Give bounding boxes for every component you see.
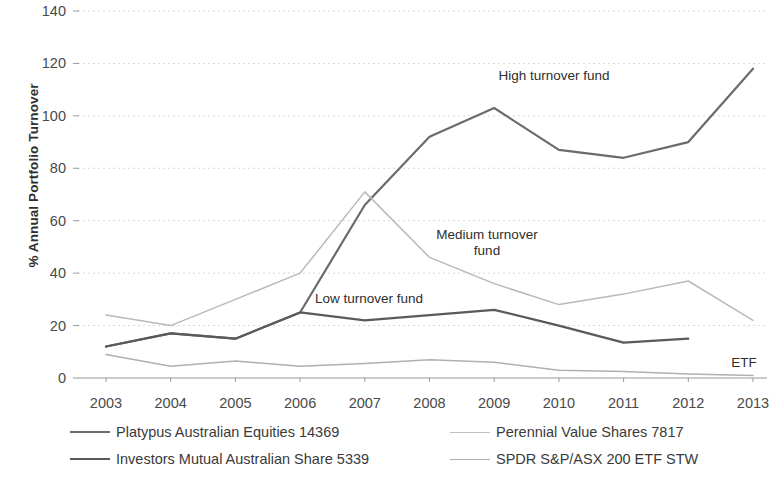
legend-swatch-icon (70, 458, 110, 460)
legend-item-0[interactable]: Platypus Australian Equities 14369 (70, 424, 339, 440)
x-tick-label: 2004 (139, 395, 203, 411)
x-tick-label: 2008 (398, 395, 462, 411)
legend-label: Investors Mutual Australian Share 5339 (116, 451, 369, 467)
annotation-high-turnover: High turnover fund (498, 68, 609, 84)
series-line-0 (106, 69, 753, 347)
x-tick-label: 2010 (527, 395, 591, 411)
annotation-etf: ETF (731, 355, 757, 371)
chart-legend: Platypus Australian Equities 14369Perenn… (70, 424, 760, 474)
annotation-medium-line2: fund (474, 243, 500, 258)
y-tick-label: 120 (20, 55, 66, 71)
data-series-group (106, 69, 753, 376)
y-tick-label: 100 (20, 108, 66, 124)
axis-lines (73, 11, 767, 382)
y-tick-label: 140 (20, 3, 66, 19)
annotation-medium-turnover: Medium turnover fund (412, 227, 562, 260)
legend-swatch-icon (450, 432, 490, 433)
annotation-low-turnover: Low turnover fund (315, 291, 423, 307)
plot-area: 020406080100120140 200320042005200620072… (78, 11, 767, 378)
x-tick-label: 2003 (74, 395, 138, 411)
series-line-2 (106, 310, 688, 347)
x-tick-label: 2007 (333, 395, 397, 411)
legend-item-1[interactable]: Perennial Value Shares 7817 (450, 424, 684, 440)
x-tick-label: 2005 (203, 395, 267, 411)
series-line-3 (106, 354, 753, 375)
chart-svg (78, 11, 767, 378)
legend-item-3[interactable]: SPDR S&P/ASX 200 ETF STW (450, 451, 698, 467)
y-tick-label: 20 (20, 318, 66, 334)
legend-label: Perennial Value Shares 7817 (496, 424, 684, 440)
x-tick-label: 2006 (268, 395, 332, 411)
legend-swatch-icon (70, 431, 110, 433)
legend-swatch-icon (450, 459, 490, 460)
legend-item-2[interactable]: Investors Mutual Australian Share 5339 (70, 451, 369, 467)
legend-label: SPDR S&P/ASX 200 ETF STW (496, 451, 698, 467)
legend-label: Platypus Australian Equities 14369 (116, 424, 339, 440)
y-tick-label: 60 (20, 213, 66, 229)
y-tick-label: 40 (20, 265, 66, 281)
gridlines (78, 11, 767, 326)
x-tick-label: 2013 (721, 395, 774, 411)
annotation-medium-line1: Medium turnover (436, 227, 537, 242)
y-tick-label: 0 (20, 370, 66, 386)
x-tick-label: 2011 (592, 395, 656, 411)
x-tick-label: 2012 (656, 395, 720, 411)
x-tick-label: 2009 (462, 395, 526, 411)
y-tick-label: 80 (20, 160, 66, 176)
